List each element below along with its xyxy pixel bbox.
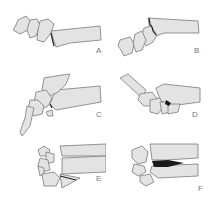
panel-e: E (0, 142, 106, 212)
panel-b: B (106, 0, 212, 70)
panel-label-f: F (198, 184, 203, 193)
panel-label-d: D (192, 110, 198, 119)
panel-label-b: B (194, 46, 199, 55)
wrist-illustration-d (106, 70, 212, 142)
wrist-illustration-a (0, 0, 106, 70)
panel-d: D (106, 70, 212, 140)
panel-label-a: A (96, 46, 101, 55)
panel-label-e: E (96, 174, 101, 183)
wrist-illustration-f (106, 142, 212, 214)
wrist-illustration-c (0, 70, 106, 142)
wrist-illustration-e (0, 142, 106, 214)
panel-label-c: C (96, 110, 102, 119)
panel-f: F (106, 142, 212, 212)
wrist-illustration-b (106, 0, 212, 70)
panel-a: A (0, 0, 106, 70)
panel-c: C (0, 70, 106, 140)
